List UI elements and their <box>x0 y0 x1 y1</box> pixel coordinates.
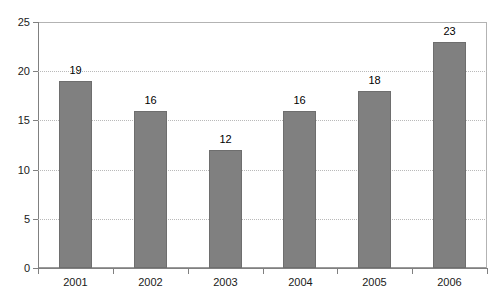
bar[interactable] <box>283 111 316 268</box>
bar-chart: 0510152025 191612161823 2001200220032004… <box>0 0 503 303</box>
y-tick-label: 10 <box>2 165 30 176</box>
bar-value-label: 19 <box>59 65 92 76</box>
y-tick-label: 20 <box>2 66 30 77</box>
y-tick-label: 25 <box>2 17 30 28</box>
x-tick-label: 2001 <box>38 277 113 288</box>
bar[interactable] <box>209 150 242 268</box>
x-tick-label: 2005 <box>337 277 412 288</box>
x-tick-mark-end <box>487 269 488 274</box>
bar-group[interactable]: 12 <box>209 22 242 268</box>
x-tick-mark <box>263 269 264 274</box>
x-tick-label: 2006 <box>412 277 487 288</box>
y-tick-label: 0 <box>2 263 30 274</box>
x-tick-label: 2003 <box>188 277 263 288</box>
x-tick-label: 2004 <box>263 277 338 288</box>
bar-value-label: 16 <box>283 95 316 106</box>
bar-value-label: 18 <box>358 75 391 86</box>
bar-group[interactable]: 16 <box>283 22 316 268</box>
bar[interactable] <box>134 111 167 268</box>
bar[interactable] <box>59 81 92 268</box>
y-tick-label: 15 <box>2 115 30 126</box>
bar-value-label: 23 <box>433 26 466 37</box>
x-tick-mark <box>337 269 338 274</box>
bar-group[interactable]: 18 <box>358 22 391 268</box>
bar-value-label: 12 <box>209 134 242 145</box>
bar-group[interactable]: 16 <box>134 22 167 268</box>
x-tick-mark-start <box>38 269 39 274</box>
y-tick-label: 5 <box>2 214 30 225</box>
bar-group[interactable]: 23 <box>433 22 466 268</box>
bars-layer: 191612161823 <box>38 22 487 268</box>
bar[interactable] <box>358 91 391 268</box>
bar[interactable] <box>433 42 466 268</box>
x-tick-mark <box>113 269 114 274</box>
x-tick-mark <box>188 269 189 274</box>
x-tick-label: 2002 <box>113 277 188 288</box>
bar-value-label: 16 <box>134 95 167 106</box>
bar-group[interactable]: 19 <box>59 22 92 268</box>
x-tick-mark <box>412 269 413 274</box>
